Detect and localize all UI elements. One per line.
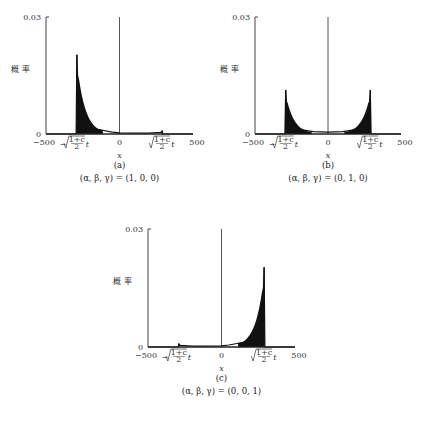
x-tick-pos-sqrt: 1+c2t [357, 135, 383, 151]
svg-text:2: 2 [283, 142, 288, 151]
panel-caption: (α, β, γ) = (0, 0, 1) [182, 386, 261, 396]
panel-label: (c) [216, 373, 227, 383]
svg-text:2: 2 [176, 355, 181, 364]
svg-text:2: 2 [160, 142, 165, 151]
x-tick-max: 500 [189, 138, 204, 147]
x-axis-label: x [326, 151, 331, 160]
y-tick-label-top: 0.03 [232, 13, 250, 22]
x-tick-zero: 0 [219, 351, 224, 360]
y-tick-label-top: 0.03 [125, 225, 143, 234]
svg-text:t: t [273, 353, 277, 362]
x-tick-neg-sqrt: −1+c2t [269, 135, 299, 151]
panel-caption: (α, β, γ) = (1, 0, 0) [80, 173, 159, 183]
svg-text:t: t [188, 353, 192, 362]
x-tick-pos-sqrt: 1+c2t [149, 135, 175, 151]
svg-text:概: 概 [220, 64, 228, 74]
x-tick-neg-sqrt: −1+c2t [60, 135, 90, 151]
x-tick-max: 500 [397, 138, 412, 147]
y-tick-label-top: 0.03 [23, 13, 41, 22]
oscillation-fill [238, 288, 264, 347]
svg-text:概: 概 [113, 276, 121, 286]
panel-caption: (α, β, γ) = (0, 1, 0) [288, 173, 367, 183]
x-tick-zero: 0 [117, 138, 122, 147]
svg-text:2: 2 [74, 142, 79, 151]
panel-c: 0.030概率−5000500−1+c2t1+c2tx(c)(α, β, γ) … [113, 225, 307, 396]
x-tick-min: −500 [242, 138, 264, 147]
panel-label: (a) [114, 160, 126, 170]
svg-text:t: t [295, 140, 299, 149]
y-axis-label: 概率 [113, 276, 132, 286]
oscillation-fill [286, 102, 312, 135]
svg-text:t: t [379, 140, 383, 149]
svg-text:2: 2 [262, 355, 267, 364]
figure: 0.030概率−5000500−1+c2t1+c2tx(a)(α, β, γ) … [0, 0, 425, 425]
x-axis-label: x [117, 151, 122, 160]
panel-a: 0.030概率−5000500−1+c2t1+c2tx(a)(α, β, γ) … [11, 13, 205, 183]
panel-b: 0.030概率−5000500−1+c2t1+c2tx(b)(α, β, γ) … [220, 13, 413, 183]
panel-label: (b) [322, 160, 334, 170]
x-tick-max: 500 [291, 351, 306, 360]
x-tick-pos-sqrt: 1+c2t [251, 348, 277, 364]
y-axis-label: 概率 [220, 64, 239, 74]
svg-text:率: 率 [22, 64, 30, 74]
x-tick-zero: 0 [325, 138, 330, 147]
svg-text:2: 2 [368, 142, 373, 151]
svg-text:t: t [86, 140, 90, 149]
svg-text:率: 率 [124, 276, 132, 286]
oscillation-fill [77, 76, 103, 134]
x-tick-min: −500 [33, 138, 55, 147]
oscillation-fill [344, 102, 370, 135]
x-axis-label: x [219, 364, 224, 373]
svg-text:t: t [171, 140, 175, 149]
y-axis-label: 概率 [11, 64, 30, 74]
x-tick-neg-sqrt: −1+c2t [162, 348, 192, 364]
x-tick-min: −500 [135, 351, 157, 360]
svg-text:概: 概 [11, 64, 19, 74]
svg-text:率: 率 [231, 64, 239, 74]
